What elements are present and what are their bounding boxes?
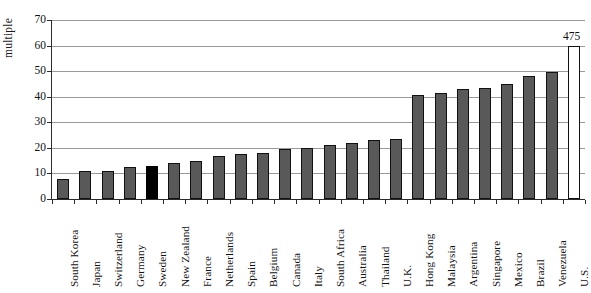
gridline (52, 71, 585, 72)
x-axis-category-label: Netherlands (223, 232, 235, 287)
bar (479, 88, 491, 199)
x-axis-tick-mark (163, 200, 164, 204)
x-axis-category-label: U.S. (578, 267, 590, 287)
x-axis-category-label: Spain (245, 261, 257, 287)
x-axis-tick-mark (496, 200, 497, 204)
y-axis-tick-mark (47, 20, 52, 21)
x-axis-tick-mark (96, 200, 97, 204)
y-axis-tick-mark (47, 122, 52, 123)
x-axis-tick-mark (230, 200, 231, 204)
bar (412, 95, 424, 199)
x-axis-tick-mark (407, 200, 408, 204)
x-axis-tick-mark (319, 200, 320, 204)
y-axis-tick-labels: 010203040506070 (8, 0, 46, 293)
bar (390, 139, 402, 199)
x-axis-tick-mark (207, 200, 208, 204)
y-axis-tick-label: 70 (16, 14, 46, 26)
x-axis-tick-mark (185, 200, 186, 204)
x-axis-category-label: South Africa (334, 229, 346, 287)
bar (124, 167, 136, 199)
bar (235, 154, 247, 199)
x-axis-tick-mark (385, 200, 386, 204)
bar (324, 145, 336, 199)
x-axis-category-label: Malaysia (445, 245, 457, 287)
bar (568, 46, 580, 199)
y-axis-tick-mark (47, 71, 52, 72)
x-axis-category-label: Venezuela (556, 240, 568, 287)
x-axis-tick-mark (141, 200, 142, 204)
y-axis-tick-label: 10 (16, 167, 46, 179)
x-axis-category-label: France (201, 256, 213, 287)
bar (57, 179, 69, 199)
x-axis-tick-mark (52, 200, 53, 204)
x-axis-category-label: New Zealand (179, 226, 191, 287)
x-axis-category-label: South Korea (68, 230, 80, 287)
bar (79, 171, 91, 199)
x-axis-category-label: Belgium (267, 248, 279, 287)
x-axis-tick-mark (341, 200, 342, 204)
bar (102, 171, 114, 199)
x-axis-category-label: Brazil (534, 259, 546, 287)
x-axis-category-label: Thailand (379, 246, 391, 287)
x-axis-category-label: Sweden (156, 251, 168, 287)
bar (501, 84, 513, 199)
x-axis-category-label: Japan (90, 261, 102, 287)
bar (257, 153, 269, 199)
x-axis-tick-mark (274, 200, 275, 204)
bar (523, 76, 535, 199)
bar (546, 72, 558, 199)
bar (279, 149, 291, 199)
y-axis-tick-mark (47, 46, 52, 47)
x-axis-category-label: U.K. (401, 265, 413, 287)
bar (457, 89, 469, 199)
bar (213, 156, 225, 199)
x-axis-tick-mark (296, 200, 297, 204)
x-axis-category-label: Argentina (467, 242, 479, 287)
x-axis-category-label: Mexico (512, 252, 524, 287)
x-axis-tick-mark (119, 200, 120, 204)
y-axis-tick-mark (47, 97, 52, 98)
y-axis-tick-label: 20 (16, 142, 46, 154)
bar (301, 148, 313, 199)
x-axis-category-label: Germany (134, 245, 146, 287)
x-axis-tick-mark (430, 200, 431, 204)
x-axis-tick-mark (585, 200, 586, 204)
x-axis-category-label: Hong Kong (423, 234, 435, 287)
bar (435, 93, 447, 199)
x-axis-tick-mark (74, 200, 75, 204)
x-axis-tick-mark (452, 200, 453, 204)
bar-value-label: 475 (563, 30, 580, 42)
x-axis-tick-mark (252, 200, 253, 204)
x-axis-category-label: Canada (290, 253, 302, 287)
bar (146, 166, 158, 199)
bar-chart: multiple 010203040506070 South KoreaJapa… (0, 0, 591, 293)
x-axis-tick-mark (541, 200, 542, 204)
x-axis-category-label: Italy (312, 266, 324, 287)
x-axis-tick-mark (363, 200, 364, 204)
y-axis-tick-label: 60 (16, 40, 46, 52)
gridline (52, 46, 585, 47)
x-axis-tick-mark (474, 200, 475, 204)
bar (368, 140, 380, 199)
x-axis-category-label: Australia (356, 245, 368, 287)
x-axis-tick-mark (563, 200, 564, 204)
bar (168, 163, 180, 199)
y-axis-tick-label: 50 (16, 65, 46, 77)
y-axis-tick-mark (47, 148, 52, 149)
bar (346, 143, 358, 199)
y-axis-tick-mark (47, 173, 52, 174)
y-axis-tick-label: 30 (16, 116, 46, 128)
x-axis-tick-mark (518, 200, 519, 204)
x-axis-category-label: Switzerland (112, 232, 124, 287)
gridline (52, 20, 585, 21)
y-axis-tick-label: 0 (16, 193, 46, 205)
y-axis-tick-label: 40 (16, 91, 46, 103)
plot-area (52, 20, 585, 199)
bar (190, 161, 202, 199)
x-axis-category-label: Singapore (490, 241, 502, 287)
